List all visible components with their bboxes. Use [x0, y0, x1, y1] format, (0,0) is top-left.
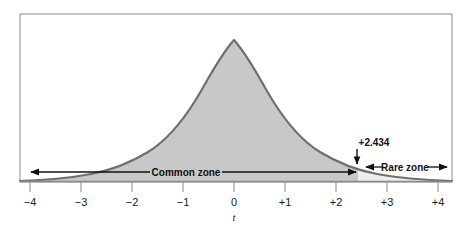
tick-label-plus-1: +1	[279, 196, 292, 208]
common-zone-label: Common zone	[152, 167, 221, 178]
distribution-chart: −4 −3 −2 −1 0 +1 +2 +3 +4 t Common zone …	[0, 0, 469, 229]
tick-label-minus-1: −1	[177, 196, 190, 208]
tick-label-minus-2: −2	[126, 196, 139, 208]
rare-zone-label: Rare zone	[381, 162, 429, 173]
x-axis-ticks	[30, 182, 438, 192]
tick-label-plus-3: +3	[381, 196, 394, 208]
x-axis-label: t	[232, 211, 236, 223]
tick-label-plus-4: +4	[432, 196, 445, 208]
tick-label-plus-2: +2	[330, 196, 343, 208]
t-distribution-figure: −4 −3 −2 −1 0 +1 +2 +3 +4 t Common zone …	[0, 0, 469, 229]
tick-label-zero: 0	[231, 196, 237, 208]
critical-value-label: +2.434	[359, 137, 390, 148]
tick-label-minus-4: −4	[24, 196, 37, 208]
tick-label-minus-3: −3	[75, 196, 88, 208]
